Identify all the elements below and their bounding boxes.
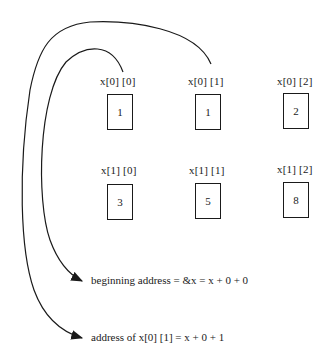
cell-x00: 1 xyxy=(107,94,133,130)
label-x02: x[0] [2] xyxy=(277,75,313,87)
label-x12: x[1] [2] xyxy=(277,163,313,175)
value-x10: 3 xyxy=(117,196,123,208)
label-x01: x[0] [1] xyxy=(188,75,224,87)
value-x11: 5 xyxy=(205,195,211,207)
cell-x12: 8 xyxy=(283,182,309,218)
arrow-x01-to-address xyxy=(22,22,211,338)
value-x12: 8 xyxy=(293,194,299,206)
cell-x01: 1 xyxy=(195,94,221,130)
cell-x02: 2 xyxy=(283,93,309,129)
value-x01: 1 xyxy=(205,106,211,118)
value-x02: 2 xyxy=(293,105,299,117)
address-x01-note: address of x[0] [1] = x + 0 + 1 xyxy=(91,331,224,343)
label-x10: x[1] [0] xyxy=(101,164,137,176)
arrows-layer xyxy=(0,0,334,359)
label-x11: x[1] [1] xyxy=(189,164,225,176)
cell-x11: 5 xyxy=(195,183,221,219)
beginning-address-note: beginning address = &x = x + 0 + 0 xyxy=(91,274,248,286)
label-x00: x[0] [0] xyxy=(100,75,136,87)
cell-x10: 3 xyxy=(107,184,133,220)
value-x00: 1 xyxy=(117,106,123,118)
